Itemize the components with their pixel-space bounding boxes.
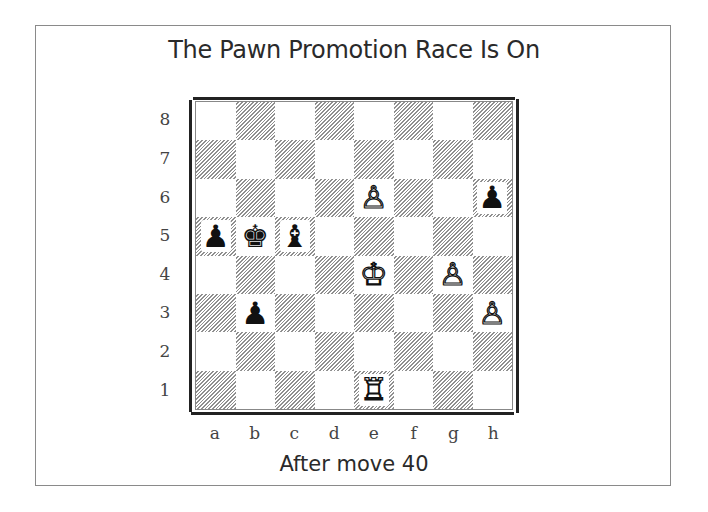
white-rook-e1-icon: ♖ — [360, 374, 388, 405]
board-border-bottom-thick — [191, 412, 514, 415]
square-f6 — [394, 179, 434, 217]
white-pawn-g4-icon: ♙ — [439, 259, 467, 290]
board-border-left-thick — [189, 100, 192, 412]
square-f1 — [394, 371, 434, 409]
square-g3 — [433, 294, 473, 332]
rank-label-2: 2 — [150, 341, 180, 361]
square-h8 — [473, 102, 513, 140]
square-e6: ♙ — [354, 179, 394, 217]
square-g7 — [433, 140, 473, 178]
square-e4: ♔ — [354, 256, 394, 294]
square-h3: ♙ — [473, 294, 513, 332]
square-e7 — [354, 140, 394, 178]
square-d2 — [315, 332, 355, 370]
square-b5: ♚ — [236, 217, 276, 255]
rank-label-4: 4 — [150, 264, 180, 284]
square-b8 — [236, 102, 276, 140]
square-c8 — [275, 102, 315, 140]
square-h7 — [473, 140, 513, 178]
black-king-b5-icon: ♚ — [241, 221, 269, 252]
square-e5 — [354, 217, 394, 255]
square-a4 — [196, 256, 236, 294]
square-h4 — [473, 256, 513, 294]
file-label-h: h — [473, 423, 513, 443]
rank-label-8: 8 — [150, 109, 180, 129]
black-pawn-a5-icon: ♟ — [202, 221, 230, 252]
square-h5 — [473, 217, 513, 255]
square-g6 — [433, 179, 473, 217]
square-b3: ♟ — [236, 294, 276, 332]
square-h1 — [473, 371, 513, 409]
square-c1 — [275, 371, 315, 409]
rank-label-3: 3 — [150, 302, 180, 322]
square-d6 — [315, 179, 355, 217]
square-a2 — [196, 332, 236, 370]
square-f3 — [394, 294, 434, 332]
square-d1 — [315, 371, 355, 409]
square-a7 — [196, 140, 236, 178]
white-pawn-e6-icon: ♙ — [360, 182, 388, 213]
file-label-g: g — [433, 423, 473, 443]
black-pawn-h6-icon: ♟ — [478, 182, 506, 213]
square-b1 — [236, 371, 276, 409]
square-a8 — [196, 102, 236, 140]
square-f4 — [394, 256, 434, 294]
square-b7 — [236, 140, 276, 178]
rank-label-1: 1 — [150, 380, 180, 400]
square-e8 — [354, 102, 394, 140]
square-c7 — [275, 140, 315, 178]
square-c3 — [275, 294, 315, 332]
white-king-e4-icon: ♔ — [360, 259, 388, 290]
square-g2 — [433, 332, 473, 370]
square-c4 — [275, 256, 315, 294]
square-a3 — [196, 294, 236, 332]
square-c6 — [275, 179, 315, 217]
square-e2 — [354, 332, 394, 370]
square-g8 — [433, 102, 473, 140]
square-h6: ♟ — [473, 179, 513, 217]
square-g1 — [433, 371, 473, 409]
square-h2 — [473, 332, 513, 370]
file-label-b: b — [235, 423, 275, 443]
square-f7 — [394, 140, 434, 178]
square-a1 — [196, 371, 236, 409]
square-e3 — [354, 294, 394, 332]
square-f8 — [394, 102, 434, 140]
diagram-title: The Pawn Promotion Race Is On — [0, 36, 708, 64]
diagram-caption: After move 40 — [0, 452, 708, 476]
chess-board: ♙♟♟♚♝♔♙♟♙♖ — [195, 101, 513, 410]
rank-label-7: 7 — [150, 148, 180, 168]
black-pawn-b3-icon: ♟ — [241, 298, 269, 329]
file-label-d: d — [314, 423, 354, 443]
square-e1: ♖ — [354, 371, 394, 409]
square-g4: ♙ — [433, 256, 473, 294]
file-label-e: e — [354, 423, 394, 443]
square-a6 — [196, 179, 236, 217]
square-d3 — [315, 294, 355, 332]
board-border-top-thick — [193, 97, 515, 100]
square-d7 — [315, 140, 355, 178]
square-a5: ♟ — [196, 217, 236, 255]
square-c2 — [275, 332, 315, 370]
square-d8 — [315, 102, 355, 140]
white-pawn-h3-icon: ♙ — [478, 298, 506, 329]
square-b2 — [236, 332, 276, 370]
square-b6 — [236, 179, 276, 217]
file-label-f: f — [394, 423, 434, 443]
square-d4 — [315, 256, 355, 294]
rank-label-5: 5 — [150, 225, 180, 245]
file-label-c: c — [274, 423, 314, 443]
board-border-right-thick — [516, 99, 519, 413]
square-g5 — [433, 217, 473, 255]
square-d5 — [315, 217, 355, 255]
file-label-a: a — [195, 423, 235, 443]
black-bishop-c5-icon: ♝ — [281, 221, 309, 252]
square-b4 — [236, 256, 276, 294]
square-f5 — [394, 217, 434, 255]
rank-label-6: 6 — [150, 187, 180, 207]
square-f2 — [394, 332, 434, 370]
square-c5: ♝ — [275, 217, 315, 255]
